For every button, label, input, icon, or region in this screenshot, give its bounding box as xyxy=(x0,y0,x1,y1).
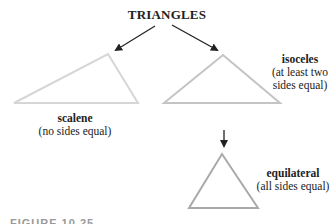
isoceles-label: isoceles (at least two sides equal) xyxy=(264,53,334,92)
scalene-name: scalene xyxy=(25,112,125,125)
figure-caption: FIGURE 10.25 ... xyxy=(10,217,110,224)
arrow-to-isoceles xyxy=(172,25,217,50)
equilateral-description: (all sides equal) xyxy=(257,180,330,192)
equilateral-triangle xyxy=(189,154,258,208)
scalene-triangle xyxy=(14,54,138,103)
equilateral-label: equilateral (all sides equal) xyxy=(250,167,334,193)
isoceles-triangle xyxy=(164,55,280,103)
isoceles-description-1: (at least two xyxy=(264,66,334,79)
diagram-title: TRIANGLES xyxy=(117,7,217,23)
equilateral-name: equilateral xyxy=(250,167,334,180)
scalene-description: (no sides equal) xyxy=(39,125,112,137)
arrow-to-scalene xyxy=(116,26,155,50)
isoceles-name: isoceles xyxy=(264,53,334,66)
scalene-label: scalene (no sides equal) xyxy=(25,112,125,138)
isoceles-description-2: sides equal) xyxy=(264,79,334,92)
